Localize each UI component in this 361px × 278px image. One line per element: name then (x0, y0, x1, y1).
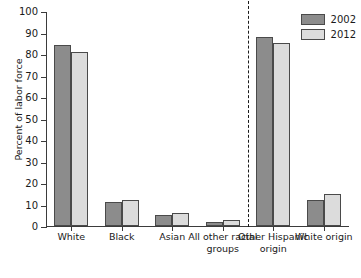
y-tick: 0 (41, 227, 47, 228)
x-axis-line (46, 226, 349, 227)
bar-chart: Percent of labor force 01020304050607080… (0, 0, 361, 278)
y-tick-label: 70 (25, 70, 38, 83)
bar-group: Other Hispanic origin (248, 37, 299, 226)
bar (206, 222, 223, 226)
y-tick-label: 60 (25, 91, 38, 104)
bar (71, 52, 88, 226)
legend-item-2012: 2012 (301, 29, 356, 40)
y-tick: 100 (41, 12, 47, 13)
y-tick-label: 100 (19, 5, 38, 18)
bar-group: Black (97, 200, 148, 226)
y-tick: 90 (41, 34, 47, 35)
legend-label: 2002 (331, 14, 356, 25)
bar (54, 45, 71, 226)
chart-title (0, 0, 361, 2)
bar (307, 200, 324, 226)
bar (105, 202, 122, 226)
bar (223, 220, 240, 226)
bar (256, 37, 273, 226)
bar (172, 213, 189, 226)
panel-divider (248, 1, 249, 227)
y-axis-title: Percent of labor force (13, 30, 24, 190)
light-gray-swatch-icon (301, 29, 325, 40)
legend-label: 2012 (331, 29, 356, 40)
bar-group: White origin (299, 194, 350, 226)
bar (273, 43, 290, 226)
bar (122, 200, 139, 226)
legend-item-2002: 2002 (301, 14, 356, 25)
bar (324, 194, 341, 226)
legend: 2002 2012 (301, 14, 356, 40)
y-tick-label: 40 (25, 134, 38, 147)
bar-group: White (46, 45, 97, 226)
bar (155, 215, 172, 226)
x-tick-label: White origin (287, 231, 361, 243)
plot-area: 0102030405060708090100 WhiteBlackAsianAl… (46, 12, 349, 227)
y-tick-label: 50 (25, 113, 38, 126)
bar-group: Asian (147, 213, 198, 226)
dark-gray-swatch-icon (301, 14, 325, 25)
y-tick-label: 30 (25, 156, 38, 169)
y-tick-label: 10 (25, 199, 38, 212)
y-tick-label: 90 (25, 27, 38, 40)
y-tick-label: 20 (25, 177, 38, 190)
y-tick-label: 80 (25, 48, 38, 61)
bar-group: All other racial groups (198, 220, 249, 226)
